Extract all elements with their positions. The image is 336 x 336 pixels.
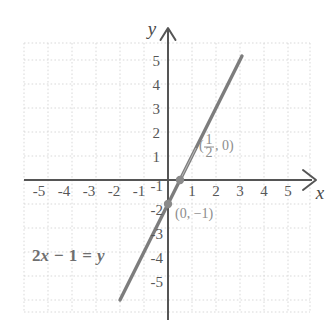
y-tick-label-neg-4: -4	[151, 250, 164, 266]
half-point-close: , 0)	[215, 138, 234, 154]
callout-leader-line	[181, 148, 196, 178]
x-tick-label-5: 5	[284, 183, 292, 199]
y-tick-label-3: 3	[153, 101, 161, 117]
equation-label: 2x−1=y	[32, 246, 105, 265]
x-tick-label-2: 2	[212, 183, 220, 199]
equation-minus-sign: −	[54, 246, 64, 265]
x-tick-label-4: 4	[260, 183, 268, 199]
equation-variable-y: y	[95, 246, 105, 265]
x-axis-label: x	[315, 182, 325, 203]
graph-svg: 5 4 3 2 1 -1 -2 -3 -4 -5 -5 -4 -3 -2 -1 …	[0, 0, 336, 336]
equation-variable-x: x	[40, 246, 50, 265]
x-tick-label-neg-5: -5	[33, 183, 46, 199]
label-zero-minus-one: (0, −1)	[175, 206, 214, 222]
label-half-zero: ( 1 2 , 0)	[199, 132, 234, 160]
x-tick-label-neg-4: -4	[58, 183, 71, 199]
y-tick-label-1: 1	[153, 149, 161, 165]
y-tick-label-neg-1: -1	[151, 178, 164, 194]
equation-equals-sign: =	[82, 246, 92, 265]
y-tick-label-neg-2: -2	[151, 202, 164, 218]
y-tick-label-5: 5	[153, 53, 161, 69]
equation-coefficient: 2	[32, 246, 41, 265]
x-tick-label-3: 3	[236, 183, 244, 199]
coordinate-graph-figure: 5 4 3 2 1 -1 -2 -3 -4 -5 -5 -4 -3 -2 -1 …	[0, 0, 336, 336]
y-tick-label-2: 2	[153, 125, 161, 141]
x-tick-label-1: 1	[188, 183, 196, 199]
half-denominator: 2	[206, 145, 213, 160]
x-tick-label-neg-1: -1	[133, 183, 146, 199]
point-half-zero	[176, 176, 184, 184]
point-zero-minus-one	[164, 200, 172, 208]
x-tick-label-neg-2: -2	[108, 183, 121, 199]
y-tick-label-4: 4	[153, 77, 161, 93]
y-tick-label-neg-5: -5	[151, 274, 164, 290]
x-tick-label-neg-3: -3	[83, 183, 96, 199]
equation-constant: 1	[69, 246, 78, 265]
svg-text:2x−1=y: 2x−1=y	[32, 246, 105, 265]
y-axis-label: y	[146, 18, 157, 39]
half-point-open-paren: (	[199, 138, 204, 154]
y-tick-label-neg-3: -3	[151, 226, 164, 242]
